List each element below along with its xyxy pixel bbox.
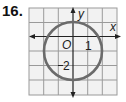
- x-axis-label: x: [109, 20, 117, 34]
- coordinate-graph: y x O 1 2: [0, 0, 126, 102]
- origin-label: O: [62, 38, 71, 52]
- tick-label-x-1: 1: [85, 39, 92, 53]
- x-axis-right-arrow-icon: [115, 34, 121, 39]
- y-axis-label: y: [77, 7, 85, 21]
- tick-label-y-neg-2: 2: [63, 59, 70, 73]
